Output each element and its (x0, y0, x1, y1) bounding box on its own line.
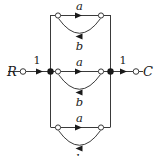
label-output-C: C (143, 64, 153, 79)
node-top-right (98, 13, 103, 18)
input-lead-arrowhead (36, 69, 43, 75)
terminal-output-node (133, 69, 139, 75)
label-input-R: R (6, 64, 17, 79)
bottom-feedback-arc (59, 131, 101, 146)
node-middle-left (55, 69, 60, 74)
summing-junction-right (107, 68, 113, 74)
middle-forward-arrowhead (75, 69, 82, 75)
label-output-gain: 1 (120, 54, 127, 67)
node-bottom-right (98, 125, 103, 130)
output-lead-arrowhead (120, 69, 127, 75)
terminal-input-node (20, 69, 26, 75)
label-bottom-feedback: b (76, 151, 83, 156)
summing-junction-left (47, 68, 53, 74)
label-middle-feedback: b (76, 95, 83, 109)
label-top-feedback: b (76, 39, 83, 53)
label-top-forward: a (76, 0, 83, 13)
label-bottom-forward: a (76, 111, 83, 125)
node-top-left (55, 13, 60, 18)
top-forward-arrowhead (75, 13, 82, 19)
bottom-forward-arrowhead (75, 125, 82, 131)
diagram-canvas: R C 1 1 a b a b a b (0, 0, 158, 156)
node-bottom-left (55, 125, 60, 130)
node-middle-right (98, 69, 103, 74)
middle-feedback-arc (59, 75, 101, 90)
top-feedback-arc (59, 19, 101, 34)
signal-flow-diagram: R C 1 1 a b a b a b (0, 0, 158, 156)
label-input-gain: 1 (34, 54, 41, 67)
label-middle-forward: a (76, 55, 83, 69)
